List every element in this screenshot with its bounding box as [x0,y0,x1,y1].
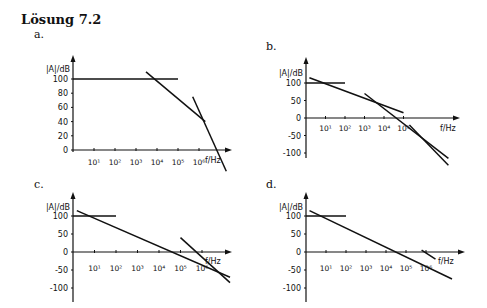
y-tick-label: 0 [296,248,301,257]
x-tick-label: 10⁵ [400,264,413,273]
y-axis-arrow-icon [304,57,309,64]
x-tick-label: 10¹ [88,158,101,167]
y-tick-label: -50 [288,132,301,141]
x-tick-label: 10⁵ [172,158,185,167]
x-tick-label: 10³ [360,264,373,273]
y-tick-label: 100 [286,212,301,221]
asymptote-line [181,238,231,283]
y-tick-label: 100 [53,75,68,84]
y-tick-label: 100 [286,79,301,88]
x-tick-label: 10³ [131,264,144,273]
y-axis-label: |A|/dB [279,203,303,212]
y-axis-label: |A|/dB [46,65,70,74]
x-tick-label: 10² [110,264,123,273]
y-tick-label: 0 [63,146,68,155]
x-tick-label: 10¹ [88,264,101,273]
x-axis-label: f/Hz [205,156,221,165]
y-tick-label: 40 [58,118,68,127]
x-tick-label: 10⁶ [193,158,206,167]
x-axis-label: f/Hz [438,257,454,266]
y-tick-label: 50 [291,97,301,106]
x-tick-label: 10⁴ [378,124,391,133]
y-tick-label: 50 [291,230,301,239]
y-axis-arrow-icon [71,55,76,62]
x-tick-label: 10⁴ [151,158,164,167]
y-tick-label: 0 [63,248,68,257]
y-tick-label: 50 [58,230,68,239]
x-axis-arrow-icon [453,116,460,121]
asymptote-line [309,78,403,113]
y-tick-label: 0 [296,114,301,123]
x-tick-label: 10³ [130,158,143,167]
y-tick-label: 100 [53,212,68,221]
x-tick-label: 10⁴ [153,264,166,273]
x-tick-label: 10⁵ [397,124,410,133]
y-tick-label: -100 [283,284,301,293]
y-tick-label: -100 [283,149,301,158]
x-tick-label: 10² [109,158,122,167]
x-axis-arrow-icon [458,250,465,255]
y-axis-arrow-icon [71,192,76,199]
x-axis-label: f/Hz [440,124,456,133]
x-tick-label: 10² [340,264,353,273]
y-tick-label: 20 [58,132,68,141]
x-tick-label: 10³ [358,124,371,133]
y-axis-arrow-icon [304,192,309,199]
y-axis-label: |A|/dB [46,203,70,212]
plot-d: |A|/dB100500-50-10010¹10²10³10⁴10⁵10⁶f/H… [279,192,465,302]
plot-b: |A|/dB100500-50-10010¹10²10³10⁴10⁵f/Hz [279,57,460,165]
plot-c: |A|/dB100500-50-10010¹10²10³10⁴10⁵10⁶f/H… [46,192,232,302]
y-axis-label: |A|/dB [279,69,303,78]
x-tick-label: 10¹ [319,124,332,133]
x-tick-label: 10⁵ [174,264,187,273]
bode-plots: |A|/dB02040608010010¹10²10³10⁴10⁵10⁶f/Hz… [0,0,487,308]
plot-a: |A|/dB02040608010010¹10²10³10⁴10⁵10⁶f/Hz [46,55,232,171]
x-tick-label: 10¹ [320,264,333,273]
y-tick-label: -100 [50,284,68,293]
y-tick-label: -50 [288,266,301,275]
x-axis-arrow-icon [225,148,232,153]
x-tick-label: 10⁴ [380,264,393,273]
y-tick-label: -50 [55,266,68,275]
y-tick-label: 60 [58,103,68,112]
x-tick-label: 10² [339,124,352,133]
y-tick-label: 80 [58,89,68,98]
x-axis-arrow-icon [225,250,232,255]
